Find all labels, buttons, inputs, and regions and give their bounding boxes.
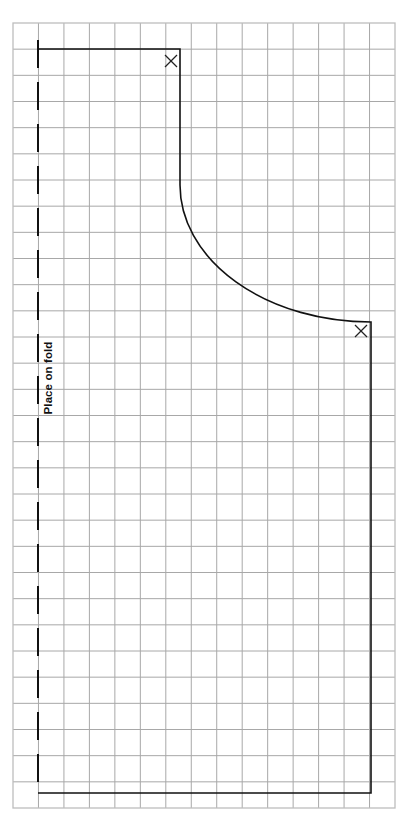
pattern-outline (38, 49, 371, 793)
neck-notch-icon (165, 55, 177, 67)
armhole-notch-icon (355, 325, 367, 337)
graph-paper-grid (13, 23, 395, 808)
pattern-canvas (0, 0, 412, 824)
fold-label: Place on fold (42, 342, 54, 415)
